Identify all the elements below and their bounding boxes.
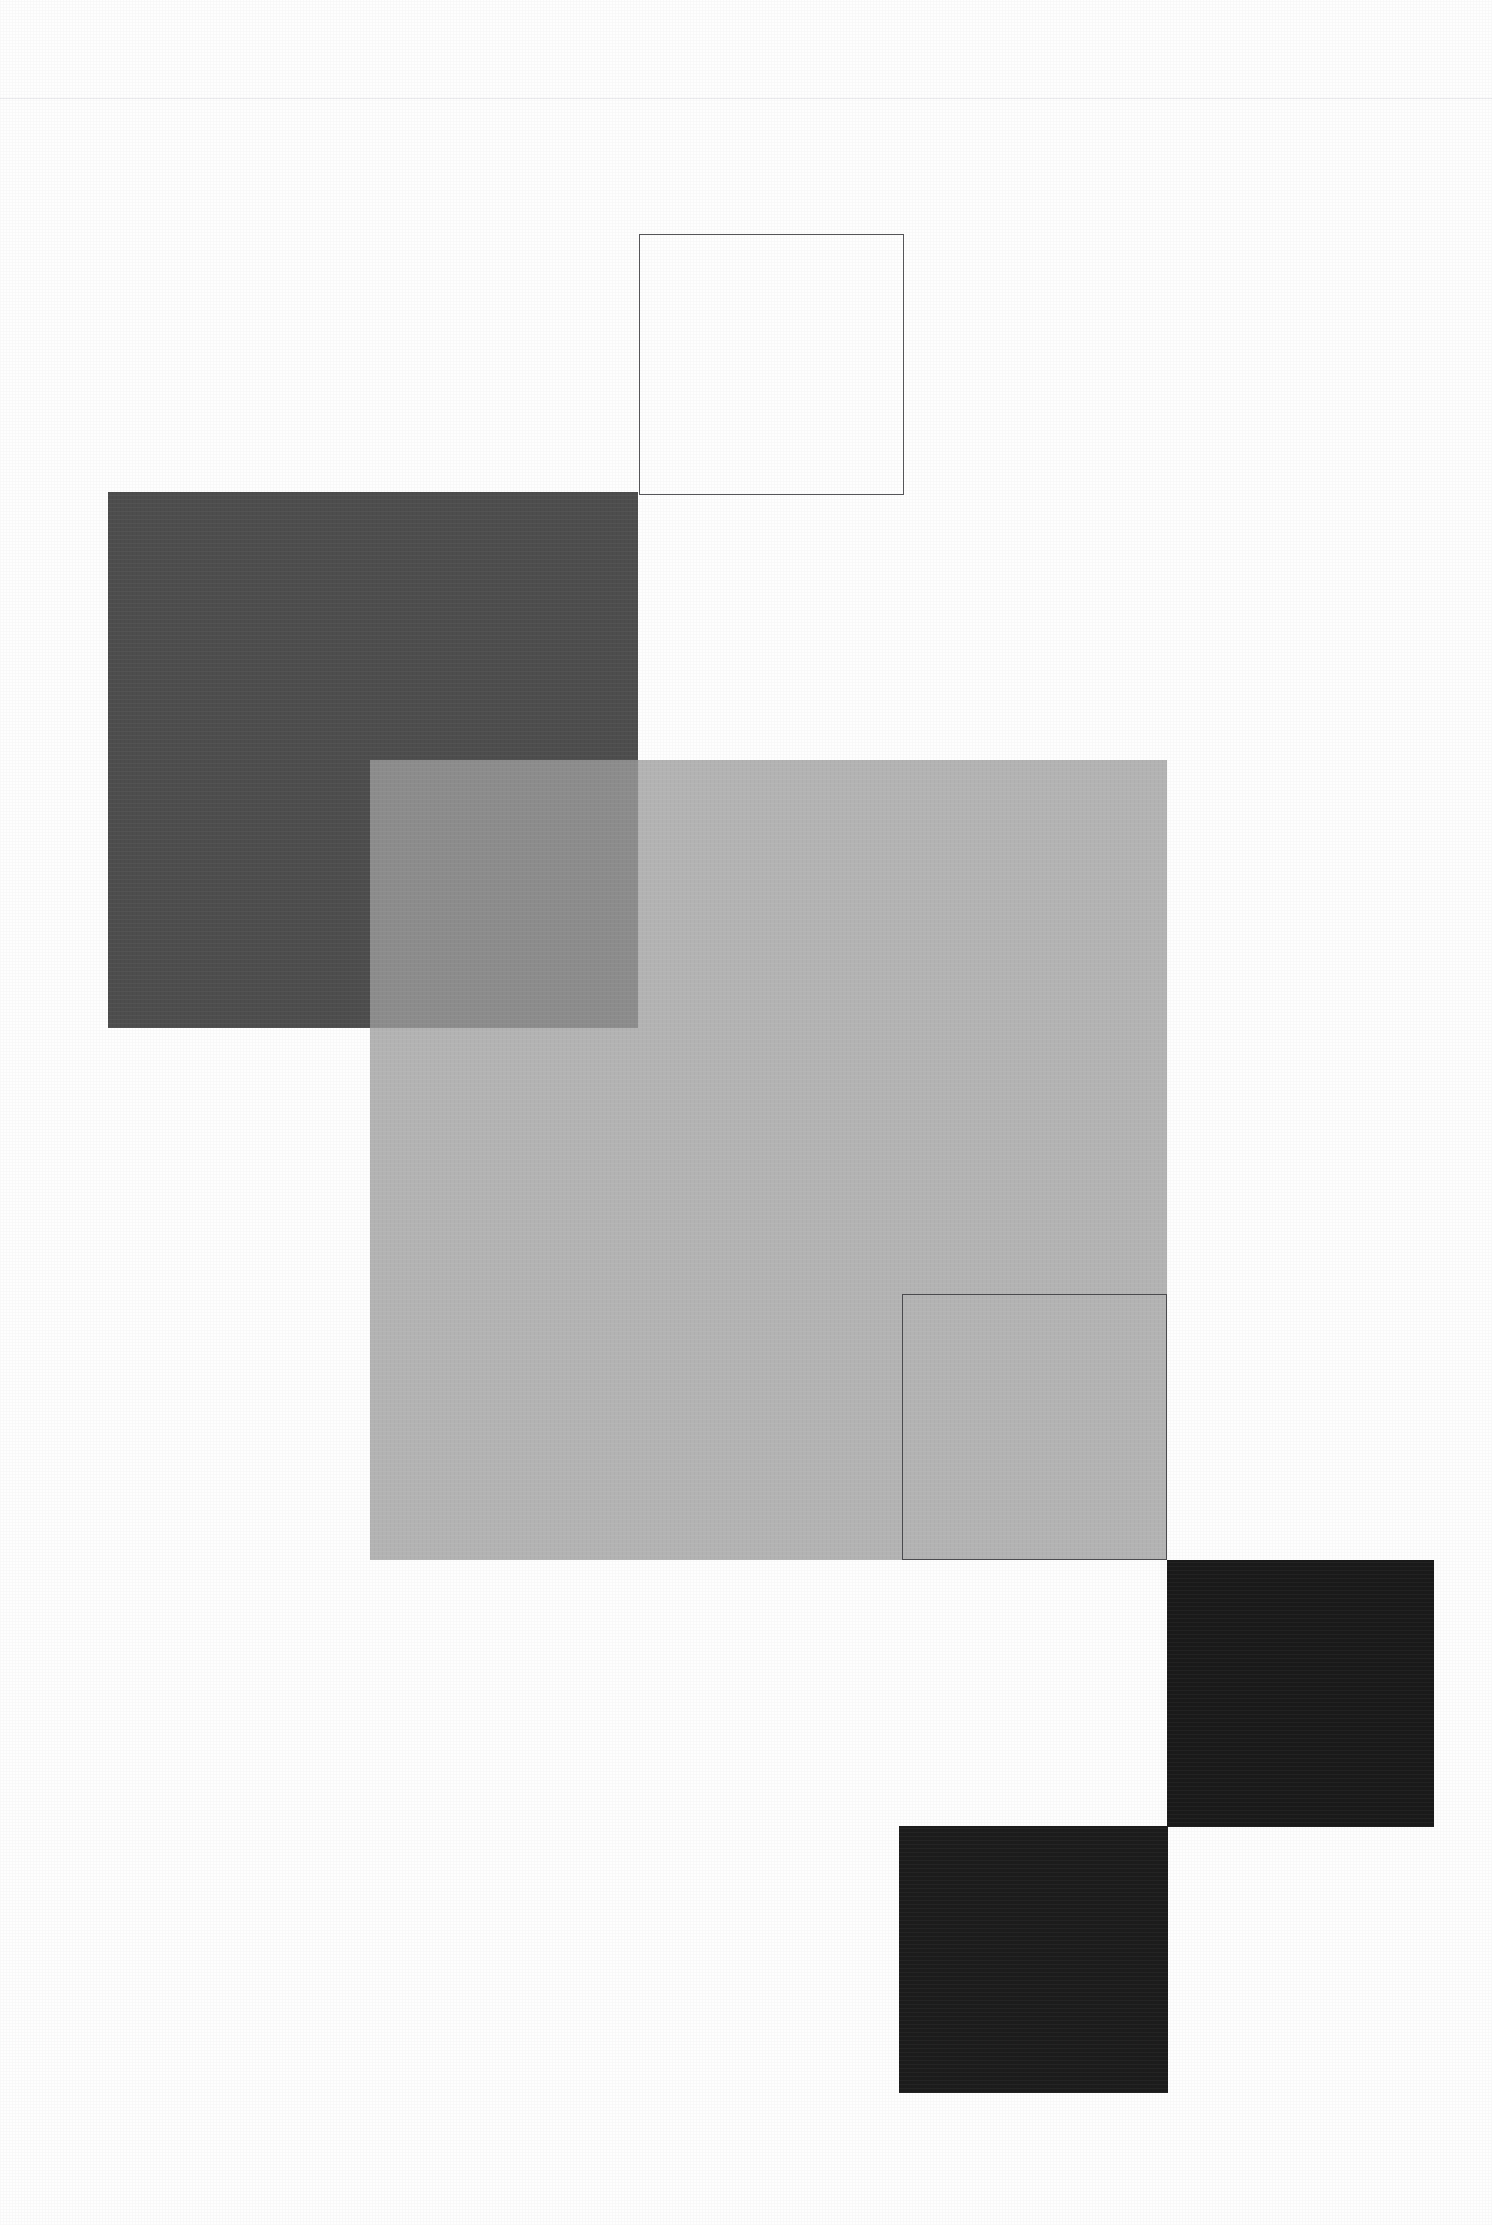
black-square-upper	[1167, 1560, 1434, 1827]
outline-square-bottom	[902, 1294, 1167, 1560]
overlap-dark-mid-region	[370, 760, 638, 1028]
black-square-upper-grain	[1167, 1560, 1434, 1827]
composition-canvas	[0, 0, 1492, 2225]
header-rule	[0, 98, 1492, 99]
black-square-lower-grain	[899, 1826, 1168, 2093]
black-square-lower	[899, 1826, 1168, 2093]
overlap-region-grain	[370, 760, 638, 1028]
outline-square-top	[639, 234, 904, 495]
